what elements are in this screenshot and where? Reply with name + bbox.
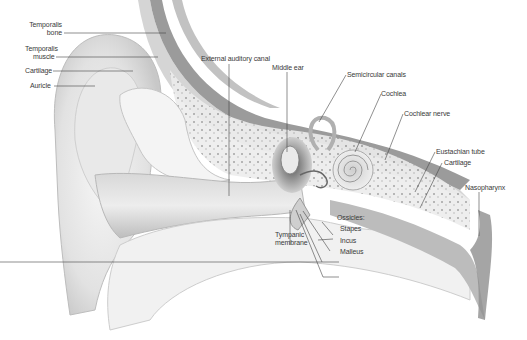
label-cochlear-nerve: Cochlear nerve: [404, 110, 450, 118]
label-line: muscle: [25, 53, 58, 61]
label-nasopharynx: Nasopharynx: [465, 184, 505, 192]
ear-anatomy-diagram: Temporalis bone Temporalis muscle Cartil…: [0, 0, 527, 340]
label-tympanic-membrane: Tympanic membrane: [275, 231, 308, 247]
malleus-shape: [281, 146, 299, 174]
ear-illustration: [0, 0, 527, 340]
label-incus: Incus: [340, 237, 356, 245]
label-eustachian-tube: Eustachian tube: [436, 148, 485, 156]
label-auricle: Auricle: [30, 82, 51, 90]
label-line: Temporalis: [25, 45, 58, 53]
cochlea-shape: [333, 150, 373, 190]
label-line: bone: [14, 29, 62, 37]
label-temporalis-bone: Temporalis bone: [14, 21, 62, 37]
label-cochlea: Cochlea: [381, 90, 406, 98]
label-semicircular-canals: Semicircular canals: [347, 71, 406, 79]
label-temporalis-muscle: Temporalis muscle: [25, 45, 58, 61]
label-cartilage-outer: Cartilage: [25, 67, 52, 75]
label-stapes: Stapes: [340, 225, 361, 233]
label-cartilage-tube: Cartilage: [444, 159, 471, 167]
label-middle-ear: Middle ear: [272, 64, 304, 72]
label-malleus: Malleus: [340, 248, 363, 256]
label-line: Temporalis: [14, 21, 62, 29]
label-external-auditory-canal: External auditory canal: [201, 55, 270, 63]
label-line: Tympanic: [275, 231, 308, 239]
label-line: membrane: [275, 239, 308, 247]
label-ossicles: Ossicles:: [337, 214, 365, 222]
